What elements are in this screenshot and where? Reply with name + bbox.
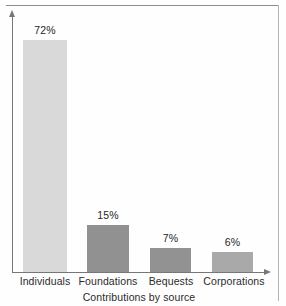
- x-axis-line: [12, 272, 265, 273]
- bar-value-label-individuals: 72%: [23, 24, 67, 36]
- y-axis-arrow-icon: [9, 10, 15, 17]
- bar-value-label-bequests: 7%: [150, 232, 191, 244]
- y-axis-line: [12, 16, 13, 273]
- bar-value-label-foundations: 15%: [87, 209, 129, 221]
- bar-value-label-corporations: 6%: [212, 236, 253, 248]
- bar-bequests: [150, 248, 191, 272]
- bar-chart-plot-area: 72% 15% 7% 6% Individuals Foundations Be…: [0, 0, 286, 306]
- x-tick-label-corporations: Corporations: [196, 275, 272, 287]
- bar-individuals: [23, 40, 67, 272]
- bar-foundations: [87, 225, 129, 272]
- bar-corporations: [212, 252, 253, 272]
- x-axis-title: Contributions by source: [0, 291, 278, 303]
- figure-page: 72% 15% 7% 6% Individuals Foundations Be…: [0, 0, 286, 306]
